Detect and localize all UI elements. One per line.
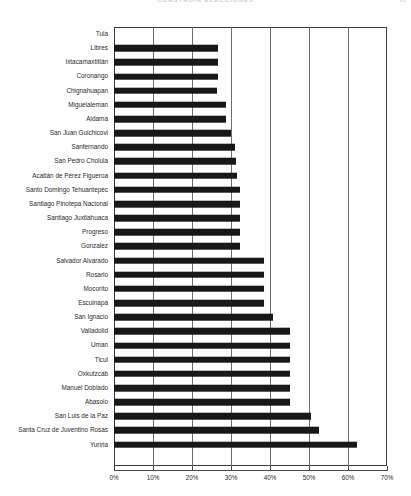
y-axis-category-labels: TulaLibresIxtacamaxtitlánCoronangoChigna…: [0, 27, 111, 466]
x-tick-mark: [114, 466, 115, 471]
y-axis-label: San Luis de la Paz: [0, 409, 111, 423]
bar-row: [114, 183, 387, 197]
bar: [114, 116, 226, 123]
bar-row: [114, 395, 387, 409]
bar: [114, 328, 290, 335]
x-tick-label: 70%: [381, 474, 394, 481]
y-axis-label: Santa Cruz de Juventino Rosas: [0, 423, 111, 437]
y-axis-label: Aldama: [0, 112, 111, 126]
bar: [114, 229, 240, 236]
bar-row: [114, 438, 387, 452]
y-axis-label: Abasolo: [0, 395, 111, 409]
bar: [114, 271, 264, 278]
bar-row: [114, 239, 387, 253]
bar: [114, 45, 218, 52]
y-axis-label: Oxkutzcab: [0, 367, 111, 381]
y-axis-label: San Ignacio: [0, 310, 111, 324]
y-axis-label: Santo Domingo Tehuantepec: [0, 183, 111, 197]
y-axis-label: Escuinapa: [0, 296, 111, 310]
y-axis-label: Miguelaleman: [0, 98, 111, 112]
bar-row: [114, 353, 387, 367]
y-axis-label: Coronango: [0, 69, 111, 83]
y-axis-label: Ixtacamaxtitlán: [0, 55, 111, 69]
x-tick-label: 40%: [264, 474, 277, 481]
bar: [114, 342, 290, 349]
x-tick-label: 20%: [186, 474, 199, 481]
bar: [114, 427, 319, 434]
bar: [114, 87, 217, 94]
y-axis-label: Libres: [0, 41, 111, 55]
x-tick-mark: [192, 466, 193, 471]
bar: [114, 59, 218, 66]
bar-row: [114, 84, 387, 98]
y-axis-label: Yuriria: [0, 438, 111, 452]
bar: [114, 441, 357, 448]
bar-row: [114, 367, 387, 381]
x-tick-mark: [387, 466, 388, 471]
y-axis-label: Gonzalez: [0, 239, 111, 253]
bar-series: [114, 27, 387, 466]
x-tick-label: 30%: [225, 474, 238, 481]
x-tick-mark: [231, 466, 232, 471]
bar-row: [114, 140, 387, 154]
bar-row: [114, 27, 387, 41]
bar: [114, 371, 290, 378]
y-axis-label: Ticul: [0, 353, 111, 367]
bar-row: [114, 225, 387, 239]
y-axis-label: Sanfernando: [0, 140, 111, 154]
bar-row: [114, 423, 387, 437]
x-tick-label: 10%: [147, 474, 160, 481]
bar: [114, 413, 311, 420]
bar: [114, 385, 290, 392]
bar: [114, 73, 218, 80]
y-axis-label: Chignahuapan: [0, 84, 111, 98]
x-tick-label: 0%: [109, 474, 118, 481]
bar-row: [114, 197, 387, 211]
bar: [114, 243, 240, 250]
bar-row: [114, 282, 387, 296]
bar: [114, 300, 264, 307]
y-axis-label: Uman: [0, 338, 111, 352]
y-axis-label: Rosario: [0, 268, 111, 282]
bar-row: [114, 268, 387, 282]
x-tick-mark: [153, 466, 154, 471]
y-axis-label: Manuel Doblado: [0, 381, 111, 395]
bar: [114, 144, 235, 151]
x-tick-mark: [309, 466, 310, 471]
bar-row: [114, 55, 387, 69]
bar-row: [114, 41, 387, 55]
y-axis-label: Tula: [0, 27, 111, 41]
bar-row: [114, 211, 387, 225]
bar: [114, 215, 240, 222]
y-axis-label: Valladolid: [0, 324, 111, 338]
bar: [114, 130, 231, 137]
bar-row: [114, 154, 387, 168]
x-tick-label: 60%: [342, 474, 355, 481]
bar: [114, 158, 236, 165]
bar-row: [114, 338, 387, 352]
bar-row: [114, 69, 387, 83]
bar: [114, 102, 226, 109]
bar-row: [114, 112, 387, 126]
bar-row: [114, 126, 387, 140]
bar: [114, 172, 237, 179]
bar: [114, 286, 264, 293]
x-tick-mark: [270, 466, 271, 471]
y-axis-label: Santiago Juxtlahuaca: [0, 211, 111, 225]
x-tick-label: 50%: [303, 474, 316, 481]
bar-row: [114, 98, 387, 112]
bar: [114, 257, 264, 264]
bar: [114, 314, 273, 321]
bar-row: [114, 324, 387, 338]
bar-row: [114, 381, 387, 395]
x-tick-mark: [348, 466, 349, 471]
y-axis-label: Acatlán de Pérez Figueroa: [0, 169, 111, 183]
x-axis-line: [114, 470, 387, 471]
bar-row: [114, 169, 387, 183]
y-axis-label: Progreso: [0, 225, 111, 239]
y-axis-label: Salvador Alvarado: [0, 254, 111, 268]
y-axis-label: Mocorito: [0, 282, 111, 296]
bar: [114, 399, 290, 406]
y-axis-label: San Pedro Cholula: [0, 154, 111, 168]
horizontal-bar-chart: TulaLibresIxtacamaxtitlánCoronangoChigna…: [0, 0, 411, 496]
